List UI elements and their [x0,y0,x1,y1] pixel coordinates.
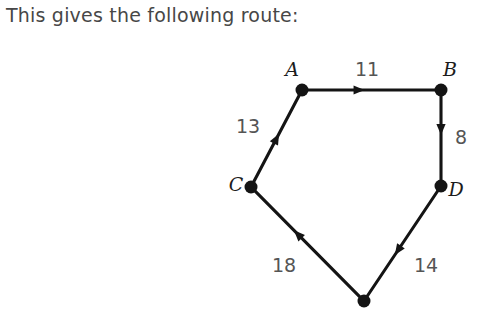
node-labels-layer: ABCD [229,58,464,200]
node-A [296,84,309,97]
edge-D-E [367,190,439,298]
node-label-A: A [283,58,299,80]
node-label-C: C [229,173,244,195]
node-label-B: B [442,58,457,80]
node-E [358,295,371,308]
node-C [245,181,258,194]
arrowhead-B-D [436,124,445,135]
edge-weight-E-C: 18 [272,254,296,276]
edge-weight-C-A: 13 [236,115,260,137]
edge-weight-A-B: 11 [355,58,379,80]
edge-weight-D-E: 14 [414,254,438,276]
arrowheads-layer [270,85,446,255]
page-canvas: This gives the following route: 13118141… [0,0,484,313]
node-B [435,84,448,97]
arrowhead-A-B [354,85,365,94]
node-label-D: D [447,178,463,200]
edge-weight-B-D: 8 [455,126,467,148]
node-D [435,180,448,193]
route-graph: 131181418 ABCD [0,0,484,313]
edge-E-C [254,190,361,298]
